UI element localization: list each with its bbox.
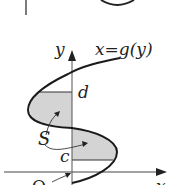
function-label: x=g(y) [95,39,153,59]
y-axis-arrow-icon [68,50,76,61]
y-axis-label: y [54,39,65,59]
origin-label: O [32,176,46,185]
x-axis-arrow-icon [156,168,167,176]
region-label: S [38,128,50,149]
previous-figure-arc [101,0,134,5]
upper-bound-label: d [78,82,89,102]
lower-bound-label: c [60,146,70,166]
graph-diagram: y x=g(y) d c S O x [0,0,177,185]
shaded-region-upper [30,92,72,128]
x-axis-label: x [156,176,166,185]
